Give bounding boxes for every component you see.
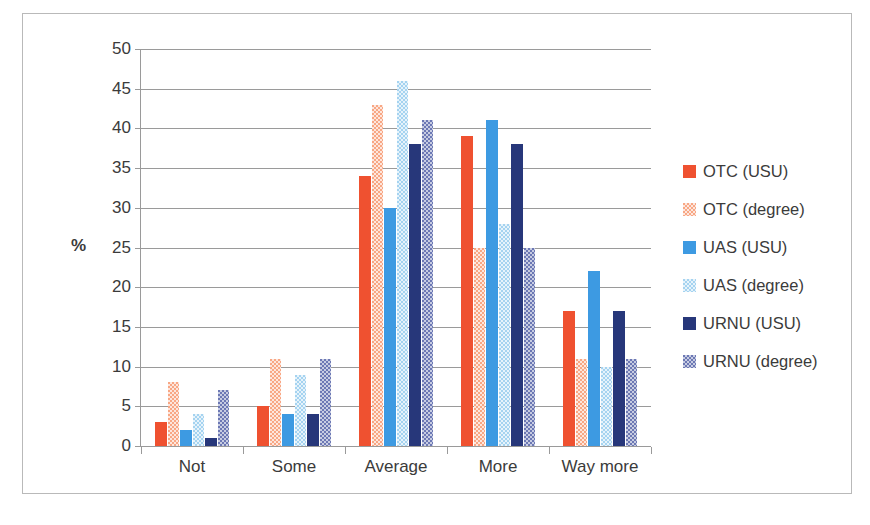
bar[interactable] <box>397 81 409 446</box>
bar[interactable] <box>576 359 588 446</box>
bar[interactable] <box>613 311 625 446</box>
x-axis-tick <box>447 447 448 454</box>
y-axis-tick <box>135 367 141 368</box>
x-axis-tick-label: Some <box>272 457 316 477</box>
bar[interactable] <box>422 120 434 446</box>
x-axis-tick-labels: NotSomeAverageMoreWay more <box>141 457 651 487</box>
legend-label: OTC (USU) <box>703 162 788 181</box>
legend-item[interactable]: URNU (USU) <box>683 304 870 342</box>
x-axis-tick <box>141 447 142 454</box>
bar[interactable] <box>486 120 498 446</box>
bar[interactable] <box>563 311 575 446</box>
legend-item[interactable]: URNU (degree) <box>683 342 870 380</box>
bar[interactable] <box>499 224 511 446</box>
legend-swatch-icon <box>683 203 696 216</box>
x-axis-tick-label: Not <box>179 457 205 477</box>
x-axis-tick <box>651 447 652 454</box>
bar[interactable] <box>320 359 332 446</box>
legend-swatch-icon <box>683 317 696 330</box>
bar[interactable] <box>257 406 269 446</box>
bar[interactable] <box>474 248 486 447</box>
y-axis-tick <box>135 327 141 328</box>
y-axis-tick-label: 45 <box>85 79 131 99</box>
legend-label: UAS (degree) <box>703 276 804 295</box>
plot-area <box>141 49 651 446</box>
y-axis-tick-label: 15 <box>85 317 131 337</box>
bar[interactable] <box>218 390 230 446</box>
x-axis-tick-label: Average <box>364 457 427 477</box>
legend-item[interactable]: OTC (USU) <box>683 152 870 190</box>
bar[interactable] <box>359 176 371 446</box>
y-axis-tick-label: 35 <box>85 158 131 178</box>
bar[interactable] <box>193 414 205 446</box>
bar[interactable] <box>461 136 473 446</box>
bar[interactable] <box>155 422 167 446</box>
bar-group-some <box>257 49 331 446</box>
bar-group-average <box>359 49 433 446</box>
bar-group-not <box>155 49 229 446</box>
legend-swatch-icon <box>683 279 696 292</box>
legend-swatch-icon <box>683 241 696 254</box>
y-axis-tick-label: 40 <box>85 118 131 138</box>
legend-label: OTC (degree) <box>703 200 805 219</box>
legend-item[interactable]: UAS (USU) <box>683 228 870 266</box>
legend-label: URNU (USU) <box>703 314 801 333</box>
bar[interactable] <box>205 438 217 446</box>
legend-swatch-icon <box>683 165 696 178</box>
x-axis-tick <box>243 447 244 454</box>
bar-group-way-more <box>563 49 637 446</box>
y-axis-tick <box>135 49 141 50</box>
x-axis-tick-label: Way more <box>562 457 639 477</box>
gridline <box>141 446 651 447</box>
y-axis-tick-label: 20 <box>85 277 131 297</box>
bar[interactable] <box>270 359 282 446</box>
bar[interactable] <box>295 375 307 446</box>
y-axis-tick <box>135 89 141 90</box>
y-axis-tick-label: 0 <box>85 436 131 456</box>
legend-label: UAS (USU) <box>703 238 787 257</box>
y-axis-tick <box>135 248 141 249</box>
bar[interactable] <box>307 414 319 446</box>
x-axis-tick-label: More <box>479 457 518 477</box>
bar[interactable] <box>601 367 613 446</box>
y-axis-tick <box>135 208 141 209</box>
bar-group-more <box>461 49 535 446</box>
bar[interactable] <box>372 105 384 446</box>
x-axis-tick <box>549 447 550 454</box>
bar[interactable] <box>168 382 180 446</box>
legend-item[interactable]: OTC (degree) <box>683 190 870 228</box>
legend-item[interactable]: UAS (degree) <box>683 266 870 304</box>
y-axis-tick-label: 30 <box>85 198 131 218</box>
bar[interactable] <box>180 430 192 446</box>
bar[interactable] <box>409 144 421 446</box>
chart-legend: OTC (USU)OTC (degree)UAS (USU)UAS (degre… <box>683 152 870 380</box>
x-axis-tick <box>345 447 346 454</box>
y-axis-tick-label: 10 <box>85 357 131 377</box>
chart-frame: % 50454035302520151050 NotSomeAverageMor… <box>22 13 852 494</box>
y-axis-tick <box>135 168 141 169</box>
y-axis-tick <box>135 406 141 407</box>
y-axis-tick-label: 25 <box>85 238 131 258</box>
legend-swatch-icon <box>683 355 696 368</box>
bar[interactable] <box>384 208 396 446</box>
bar[interactable] <box>588 271 600 446</box>
legend-label: URNU (degree) <box>703 352 818 371</box>
bar[interactable] <box>282 414 294 446</box>
bar[interactable] <box>524 248 536 447</box>
y-axis-tick <box>135 287 141 288</box>
y-axis-tick <box>135 128 141 129</box>
y-axis-tick-label: 50 <box>85 39 131 59</box>
y-axis-tick-label: 5 <box>85 396 131 416</box>
bar[interactable] <box>626 359 638 446</box>
bar[interactable] <box>511 144 523 446</box>
y-axis-tick-labels: 50454035302520151050 <box>75 49 131 446</box>
